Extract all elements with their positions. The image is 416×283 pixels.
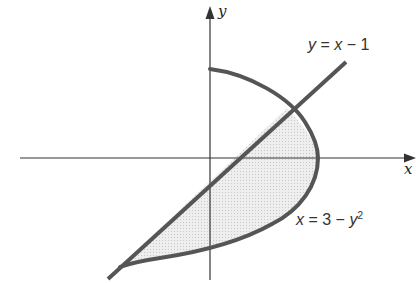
line-eq-equals: = [316,36,334,53]
y-axis-label: y [218,2,226,20]
parabola-eq-lhs: x [296,211,304,228]
line-eq-lhs: y [308,36,316,53]
x-axis-label: x [404,160,412,178]
line-eq-rest: − 1 [342,36,369,53]
parabola-equation-label: x = 3 − y2 [296,210,363,229]
parabola-eq-num: = 3 − [304,211,349,228]
y-axis-arrow-icon [206,6,215,19]
parabola-eq-exp: 2 [357,210,363,221]
line-equation-label: y = x − 1 [308,36,369,54]
